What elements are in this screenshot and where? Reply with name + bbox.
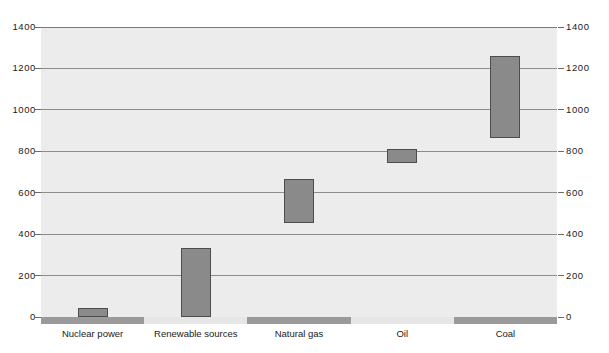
gridline-1200: [41, 68, 557, 69]
y-tick-mark-left-200: [35, 275, 41, 276]
y-axis-left: 0200400600800100012001400: [0, 0, 36, 353]
x-axis-band-segment: [247, 317, 350, 324]
x-axis-band-segment: [351, 317, 454, 324]
y-tick-label-left-800: 800: [18, 146, 36, 156]
y-tick-label-right-400: 400: [566, 229, 584, 239]
y-tick-mark-left-1400: [35, 27, 41, 28]
y-tick-mark-right-200: [558, 275, 564, 276]
x-axis-band: [41, 317, 557, 324]
range-bar: [387, 149, 417, 162]
y-tick-mark-right-400: [558, 234, 564, 235]
x-axis-label-renewable-sources: Renewable sources: [144, 328, 247, 344]
y-tick-label-right-600: 600: [566, 188, 584, 198]
y-tick-label-left-1400: 1400: [12, 22, 36, 32]
range-bar: [78, 308, 108, 317]
x-axis-label-coal: Coal: [454, 328, 557, 344]
gridline-800: [41, 151, 557, 152]
plot-area: [41, 27, 557, 317]
y-tick-mark-left-600: [35, 192, 41, 193]
y-tick-mark-right-800: [558, 151, 564, 152]
chart-title: [0, 0, 609, 14]
y-tick-mark-right-1200: [558, 68, 564, 69]
y-tick-label-left-400: 400: [18, 229, 36, 239]
range-bar: [284, 179, 314, 223]
gridline-400: [41, 234, 557, 235]
y-tick-label-left-1000: 1000: [12, 105, 36, 115]
gridline-200: [41, 275, 557, 276]
y-tick-mark-right-0: [558, 317, 564, 318]
x-axis-category-labels: Nuclear powerRenewable sourcesNatural ga…: [41, 328, 557, 344]
range-bar: [490, 56, 520, 138]
x-axis-band-segment: [144, 317, 247, 324]
y-tick-label-left-1200: 1200: [12, 63, 36, 73]
y-axis-right: 0200400600800100012001400: [566, 0, 609, 353]
y-tick-label-right-0: 0: [566, 312, 572, 322]
gridline-1000: [41, 109, 557, 110]
x-axis-label-natural-gas: Natural gas: [247, 328, 350, 344]
y-tick-mark-right-600: [558, 192, 564, 193]
x-axis-band-segment: [41, 317, 144, 324]
y-tick-label-right-800: 800: [566, 146, 584, 156]
chart-root: 0200400600800100012001400 02004006008001…: [0, 0, 609, 353]
y-tick-mark-right-1000: [558, 109, 564, 110]
y-tick-mark-left-1200: [35, 68, 41, 69]
y-tick-mark-left-800: [35, 151, 41, 152]
y-tick-label-left-200: 200: [18, 271, 36, 281]
y-tick-mark-right-1400: [558, 27, 564, 28]
y-tick-label-right-1200: 1200: [566, 63, 590, 73]
y-tick-mark-left-0: [35, 317, 41, 318]
y-tick-label-left-600: 600: [18, 188, 36, 198]
x-axis-band-segment: [454, 317, 557, 324]
x-axis-label-nuclear-power: Nuclear power: [41, 328, 144, 344]
y-tick-mark-left-400: [35, 234, 41, 235]
range-bar: [181, 248, 211, 317]
y-tick-label-right-200: 200: [566, 271, 584, 281]
y-tick-mark-left-1000: [35, 109, 41, 110]
y-tick-label-right-1400: 1400: [566, 22, 590, 32]
y-tick-label-right-1000: 1000: [566, 105, 590, 115]
x-axis-label-oil: Oil: [351, 328, 454, 344]
gridline-1400: [41, 27, 557, 28]
